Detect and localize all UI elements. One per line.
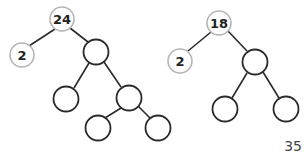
edge — [104, 62, 121, 87]
factor-label: 2 — [17, 48, 26, 63]
edge — [188, 32, 211, 51]
edge — [29, 29, 55, 46]
edge — [74, 63, 89, 88]
empty-node — [213, 97, 238, 122]
edge — [228, 31, 247, 51]
root-label: 18 — [210, 16, 228, 31]
edge — [105, 108, 121, 118]
empty-node — [54, 87, 79, 112]
empty-node — [243, 50, 268, 75]
empty-node — [86, 116, 111, 141]
edge — [70, 28, 88, 42]
empty-node — [274, 97, 299, 122]
root-label: 24 — [53, 12, 71, 27]
factor-tree-18: 18 2 — [168, 11, 299, 122]
page-number: 35 — [284, 138, 302, 154]
empty-node — [84, 40, 109, 65]
empty-node — [146, 116, 171, 141]
factor-trees-figure: 24 2 18 2 — [0, 0, 304, 154]
edge — [232, 73, 247, 98]
edge — [263, 72, 279, 98]
factor-tree-24: 24 2 — [10, 7, 171, 141]
edge — [138, 106, 150, 118]
factor-label: 2 — [175, 54, 184, 69]
empty-node — [117, 86, 142, 111]
